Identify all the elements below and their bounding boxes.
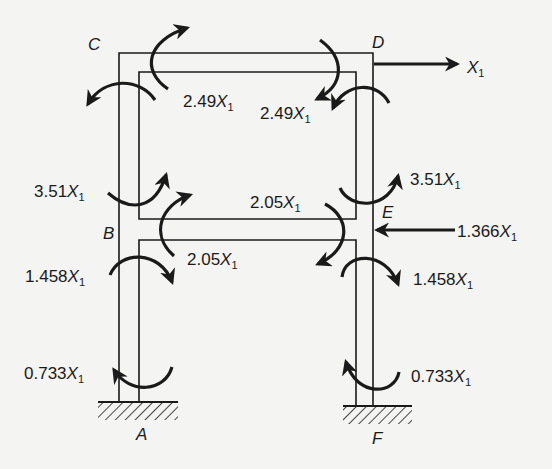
moment-arc-E-beam <box>318 204 344 264</box>
portal-frame-diagram: C D B E A F X1 1.366X1 2.49X1 2.49X1 3.5… <box>0 0 552 469</box>
moment-label-E-beam: 2.05X1 <box>250 193 301 214</box>
node-label-E: E <box>382 203 394 222</box>
moment-label-E-upper: 3.51X1 <box>410 170 461 191</box>
moment-arc-E-lower <box>342 258 398 284</box>
node-label-F: F <box>372 429 384 448</box>
moment-label-B-beam: 2.05X1 <box>187 250 238 271</box>
moment-arc-B-upper <box>108 175 166 205</box>
moment-arc-A <box>114 367 172 387</box>
node-label-C: C <box>88 35 101 54</box>
moment-arc-C-beam <box>151 28 187 89</box>
node-label-D: D <box>372 33 384 52</box>
load-label-E: 1.366X1 <box>457 222 517 243</box>
node-label-B: B <box>103 224 114 243</box>
moment-label-B-upper: 3.51X1 <box>34 182 85 203</box>
moment-arc-D-beam <box>317 40 338 99</box>
load-label-D: X1 <box>466 58 484 79</box>
moment-arc-C-column <box>88 83 155 104</box>
moment-label-B-lower: 1.458X1 <box>25 267 85 288</box>
moment-label-F: 0.733X1 <box>411 367 471 388</box>
moment-arc-E-upper <box>340 176 398 203</box>
moment-label-A: 0.733X1 <box>24 364 84 385</box>
moment-label-E-lower: 1.458X1 <box>413 270 473 291</box>
lower-left-column-inner <box>139 240 356 406</box>
moment-arc-B-beam <box>161 195 190 256</box>
moment-label-C-beam: 2.49X1 <box>183 92 234 113</box>
support-A <box>98 402 178 420</box>
moment-arrows <box>88 28 399 389</box>
moment-arc-D-column <box>333 87 389 108</box>
moment-label-D-beam: 2.49X1 <box>260 104 311 125</box>
support-F <box>343 406 412 424</box>
node-label-A: A <box>135 425 147 444</box>
